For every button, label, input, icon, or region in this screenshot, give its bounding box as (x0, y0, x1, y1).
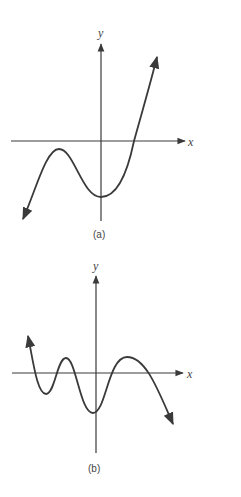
x-axis-label-b: x (186, 367, 193, 381)
caption-a: (a) (93, 229, 105, 240)
graph-a: x y (a) (11, 26, 194, 240)
y-axis-label-a: y (97, 26, 104, 40)
curve-a (23, 57, 157, 219)
curve-b (28, 336, 173, 424)
figure: x y (a) x y (b) (0, 0, 241, 497)
x-axis-label-a: x (187, 135, 194, 149)
graph-b: x y (b) (12, 259, 193, 474)
caption-b: (b) (88, 463, 100, 474)
y-axis-label-b: y (92, 259, 99, 273)
